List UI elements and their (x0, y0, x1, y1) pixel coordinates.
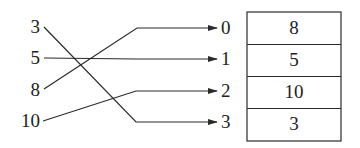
array-cell: 10 (247, 82, 341, 102)
array-cell: 5 (247, 50, 341, 70)
index-label: 3 (221, 112, 237, 132)
index-label: 1 (221, 49, 237, 69)
index-label: 2 (221, 81, 237, 101)
arrow-5-to-index-1 (44, 58, 217, 59)
source-value: 10 (0, 111, 40, 131)
source-value: 3 (0, 17, 40, 37)
source-value: 5 (0, 48, 40, 68)
array-cell: 8 (247, 18, 341, 38)
index-label: 0 (221, 18, 237, 38)
array-cell: 3 (247, 114, 341, 134)
source-value: 8 (0, 80, 40, 100)
arrow-3-to-index-3 (44, 27, 217, 122)
